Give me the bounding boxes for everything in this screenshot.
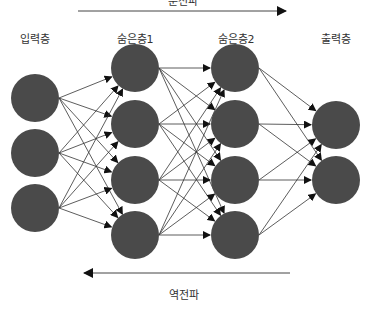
connection-edge [59, 208, 111, 227]
forward-propagation-label: 순전파 [168, 0, 198, 8]
hidden1-neuron [111, 100, 159, 148]
connection-edge [159, 90, 224, 235]
connection-edge [159, 144, 220, 235]
input-neuron [11, 129, 59, 177]
connection-edge [259, 68, 316, 111]
connection-edge [259, 194, 315, 235]
hidden2-neuron [211, 100, 259, 148]
connection-edge [59, 89, 123, 208]
hidden1-neuron [111, 211, 159, 259]
output-neuron [312, 101, 360, 149]
hidden1-neuron [111, 44, 159, 92]
hidden2-neuron [211, 211, 259, 259]
connection-edge [59, 86, 118, 153]
connection-edge [59, 133, 112, 153]
hidden2-neuron [211, 44, 259, 92]
connection-edge [159, 124, 220, 215]
connection-edge [159, 68, 221, 160]
connection-edge [259, 124, 311, 125]
connection-edge [59, 188, 111, 208]
connection-edge [259, 68, 321, 160]
layer-label-hidden1: 숨은층1 [117, 30, 154, 46]
neural-network-diagram: 순전파 입력층 숨은층1 숨은층2 출력층 역전파 [0, 0, 367, 312]
connections [59, 68, 321, 235]
connection-edge [59, 77, 112, 98]
layer-label-input: 입력층 [20, 30, 50, 46]
hidden1-neuron [111, 156, 159, 204]
network-graph [0, 0, 367, 312]
output-neuron [312, 156, 360, 204]
hidden2-neuron [211, 156, 259, 204]
connection-edge [59, 153, 111, 172]
input-neuron [11, 184, 59, 232]
connection-edge [59, 153, 118, 217]
connection-edge [259, 145, 321, 235]
input-neuron [11, 74, 59, 122]
layer-label-hidden2: 숨은층2 [218, 30, 255, 46]
backward-propagation-label: 역전파 [169, 286, 199, 302]
layer-label-output: 출력층 [321, 30, 351, 46]
